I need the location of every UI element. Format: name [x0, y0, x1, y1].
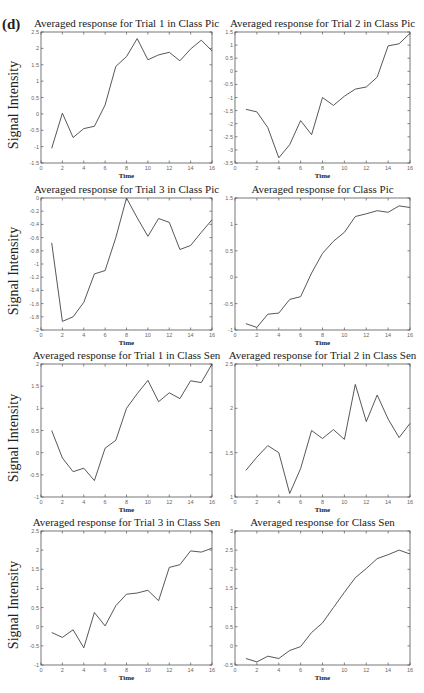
- x-tick-label: 10: [145, 667, 151, 673]
- data-line: [52, 548, 212, 648]
- x-tick-label: 4: [277, 332, 280, 338]
- x-axis-label: Time: [119, 339, 134, 347]
- y-tick-label: 2: [230, 405, 233, 411]
- data-line: [246, 206, 410, 328]
- x-tick-label: 6: [299, 499, 302, 505]
- x-tick-label: 14: [385, 332, 391, 338]
- x-tick-label: 16: [209, 165, 215, 171]
- x-tick-label: 14: [188, 165, 194, 171]
- x-tick-label: 2: [61, 165, 64, 171]
- y-tick-label: 2: [36, 547, 39, 553]
- y-tick-label: -0.4: [30, 221, 39, 227]
- x-tick-label: 14: [385, 667, 391, 673]
- x-tick-label: 16: [407, 165, 413, 171]
- x-axis-label: Time: [119, 172, 134, 180]
- y-tick-label: -1: [228, 95, 233, 101]
- y-tick-label: -1.2: [30, 274, 39, 280]
- x-tick-label: 10: [341, 499, 347, 505]
- chart-7: Averaged response for Trial 3 in Class S…: [30, 516, 221, 682]
- chart-title: Averaged response for Trial 2 in Class P…: [230, 17, 415, 29]
- x-tick-label: 8: [125, 332, 128, 338]
- y-tick-label: -1: [34, 261, 39, 267]
- x-tick-label: 10: [341, 165, 347, 171]
- x-tick-label: 8: [321, 165, 324, 171]
- axes-box: [235, 531, 410, 665]
- y-tick-label: -0.5: [224, 662, 233, 668]
- y-tick-label: 0: [230, 643, 233, 649]
- y-tick-label: 1: [230, 42, 233, 48]
- y-tick-label: 1.5: [225, 195, 233, 201]
- x-tick-label: 10: [145, 332, 151, 338]
- x-tick-label: 6: [104, 332, 107, 338]
- x-tick-label: 6: [104, 499, 107, 505]
- x-tick-label: 6: [104, 667, 107, 673]
- chart-title: Averaged response for Trial 2 in Class S…: [229, 349, 417, 361]
- x-tick-label: 8: [321, 499, 324, 505]
- x-tick-label: 12: [166, 332, 172, 338]
- y-tick-label: 1: [36, 405, 39, 411]
- y-tick-label: -1.4: [30, 287, 39, 293]
- x-tick-label: 0: [233, 499, 236, 505]
- x-tick-label: 2: [61, 332, 64, 338]
- y-tick-label: 1.5: [31, 383, 39, 389]
- y-tick-label: -2: [228, 121, 233, 127]
- y-tick-label: 1.5: [225, 450, 233, 456]
- data-line: [52, 198, 212, 321]
- y-tick-label: 2.5: [225, 547, 233, 553]
- y-tick-label: 2: [36, 361, 39, 367]
- y-tick-label: -1.6: [30, 301, 39, 307]
- y-tick-label: -1: [34, 662, 39, 668]
- x-tick-label: 12: [363, 165, 369, 171]
- x-axis-label: Time: [119, 506, 134, 514]
- y-tick-label: 1: [230, 221, 233, 227]
- y-tick-label: 0: [36, 195, 39, 201]
- x-tick-label: 0: [233, 332, 236, 338]
- x-tick-label: 0: [233, 165, 236, 171]
- x-tick-label: 2: [255, 667, 258, 673]
- x-tick-label: 16: [407, 667, 413, 673]
- y-tick-label: 0: [230, 68, 233, 74]
- x-tick-label: 0: [233, 667, 236, 673]
- x-tick-label: 2: [61, 499, 64, 505]
- x-tick-label: 4: [82, 667, 85, 673]
- x-tick-label: 8: [125, 165, 128, 171]
- x-tick-label: 16: [407, 332, 413, 338]
- x-tick-label: 14: [188, 332, 194, 338]
- x-tick-label: 0: [39, 667, 42, 673]
- y-tick-label: -1.5: [30, 160, 39, 166]
- y-tick-label: 2: [36, 45, 39, 51]
- y-tick-label: 0: [36, 111, 39, 117]
- x-tick-label: 6: [299, 165, 302, 171]
- x-tick-label: 4: [277, 165, 280, 171]
- chart-4: Averaged response for Class Pic024681012…: [224, 183, 414, 347]
- chart-8: Averaged response for Class Sen024681012…: [224, 516, 414, 682]
- x-tick-label: 2: [255, 165, 258, 171]
- y-tick-label: -1.5: [224, 108, 233, 114]
- chart-title: Averaged response for Trial 1 in Class S…: [33, 349, 221, 361]
- y-tick-label: -0.5: [224, 81, 233, 87]
- x-tick-label: 8: [125, 499, 128, 505]
- x-tick-label: 10: [341, 332, 347, 338]
- y-tick-label: 0: [230, 274, 233, 280]
- data-line: [246, 33, 410, 158]
- y-tick-label: -0.5: [224, 301, 233, 307]
- y-tick-label: -3.5: [224, 160, 233, 166]
- chart-1: Averaged response for Trial 1 in Class P…: [30, 17, 220, 180]
- y-tick-label: 1: [36, 585, 39, 591]
- figure: (d) Averaged response for Trial 1 in Cla…: [0, 0, 424, 693]
- x-axis-label: Time: [315, 172, 330, 180]
- y-tick-label: 1.5: [225, 29, 233, 35]
- x-axis-label: Time: [119, 674, 134, 682]
- x-tick-label: 10: [341, 667, 347, 673]
- x-tick-label: 12: [363, 499, 369, 505]
- x-tick-label: 4: [82, 332, 85, 338]
- y-tick-label: 2.5: [31, 528, 39, 534]
- y-tick-label: -3: [228, 147, 233, 153]
- data-line: [52, 39, 212, 149]
- y-tick-label: 0: [36, 450, 39, 456]
- y-tick-label: 2: [230, 566, 233, 572]
- x-tick-label: 4: [82, 499, 85, 505]
- y-tick-label: 0.5: [225, 624, 233, 630]
- x-tick-label: 0: [39, 499, 42, 505]
- x-tick-label: 8: [321, 667, 324, 673]
